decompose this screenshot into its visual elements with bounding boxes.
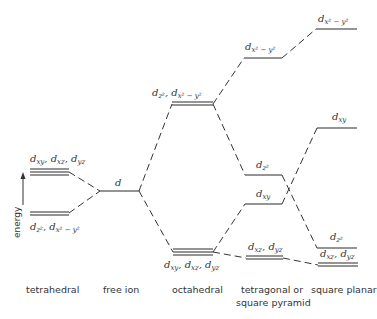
tetragonal-levels: dx² − y² dz² dxy dxz, dyz [244, 41, 283, 259]
sqp-dx2y2-label: dx² − y² [318, 13, 348, 26]
crystal-field-diagram: energy dxy, dxz, dyz dz², dx² − y² d dz²… [0, 0, 377, 319]
label-tetragonal-line1: tetragonal or [241, 284, 303, 295]
label-square-planar: square planar [311, 284, 377, 295]
tetragonal-dz2-label: dz² [256, 159, 269, 172]
column-labels: tetrahedral free ion octahedral tetragon… [26, 284, 377, 308]
square-planar-levels: dx² − y² dxy dz² dxz, dyz [316, 13, 358, 266]
arrow-up-icon [21, 172, 26, 179]
tetragonal-dxy-label: dxy [256, 188, 271, 201]
tetrahedral-levels: dxy, dxz, dyz dz², dx² − y² [30, 153, 85, 234]
correlation-lines [69, 29, 318, 265]
label-free-ion: free ion [103, 284, 139, 295]
label-tetrahedral: tetrahedral [26, 284, 79, 295]
label-tetragonal-line2: square pyramid [236, 297, 311, 308]
tetragonal-dx2y2-label: dx² − y² [245, 41, 275, 54]
free-ion-d-label: d [115, 177, 121, 188]
free-ion-level: d [100, 177, 139, 191]
energy-axis: energy [12, 172, 26, 238]
sqp-dxy-label: dxy [332, 111, 347, 124]
tetra-lower-label: dz², dx² − y² [30, 221, 80, 234]
oct-lower-label: dxy, dxz, dyz [164, 259, 219, 272]
label-octahedral: octahedral [172, 284, 223, 295]
sqp-dz2-label: dz² [330, 231, 343, 244]
oct-upper-label: dz², dx² − y² [152, 87, 202, 100]
tetragonal-dxz-dyz-label: dxz, dyz [248, 241, 283, 254]
energy-axis-label: energy [12, 206, 22, 238]
tetra-upper-label: dxy, dxz, dyz [30, 153, 85, 166]
sqp-dxz-dyz-label: dxz, dyz [320, 248, 355, 261]
octahedral-levels: dz², dx² − y² dxy, dxz, dyz [152, 87, 219, 272]
